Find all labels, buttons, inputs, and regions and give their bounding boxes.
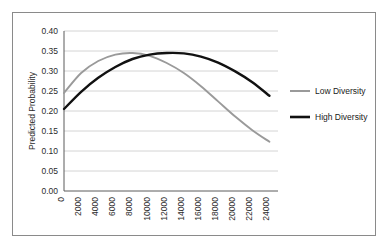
y-axis-title-text: Predicted Probability [27,71,37,150]
y-tick-label: 0.05 [41,166,58,176]
x-tick-label: 18000 [210,197,220,221]
x-tick-label: 12000 [159,197,169,221]
y-tick-label: 0.15 [41,126,58,136]
x-tick-label: 22000 [244,197,254,221]
y-tick-label: 0.10 [41,146,58,156]
y-axis-title: Predicted Probability [27,71,37,150]
x-tick-label: 10000 [142,197,152,221]
x-axis-tick-labels: 0200040006000800010000120001400016000180… [56,197,271,221]
legend-label-low-diversity: Low Diversity [315,86,366,96]
y-tick-label: 0.00 [41,186,58,196]
x-tick-label: 16000 [193,197,203,221]
y-axis-tick-labels: 0.000.050.100.150.200.250.300.350.40 [41,26,58,196]
x-tick-label: 2000 [73,197,83,216]
x-tick-label: 4000 [90,197,100,216]
legend: Low DiversityHigh Diversity [290,86,368,122]
x-tick-label: 8000 [124,197,134,216]
x-tick-label: 14000 [176,197,186,221]
y-tick-label: 0.25 [41,86,58,96]
y-tick-label: 0.20 [41,106,58,116]
predicted-probability-line-chart: 0.000.050.100.150.200.250.300.350.40 020… [13,13,375,235]
legend-label-high-diversity: High Diversity [315,112,368,122]
y-tick-label: 0.40 [41,26,58,36]
x-tick-label: 0 [56,197,66,202]
figure-frame: 0.000.050.100.150.200.250.300.350.40 020… [12,12,376,236]
y-tick-label: 0.30 [41,66,58,76]
x-tick-label: 20000 [227,197,237,221]
x-tick-label: 24000 [261,197,271,221]
y-tick-label: 0.35 [41,46,58,56]
x-tick-label: 6000 [107,197,117,216]
